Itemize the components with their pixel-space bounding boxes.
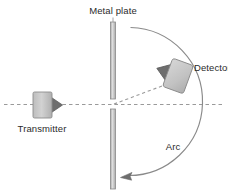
detector-body	[163, 58, 194, 94]
metal-plate-label: Metal plate	[89, 5, 137, 16]
metal-plate-bottom-segment	[111, 109, 116, 189]
transmitter-body	[33, 92, 52, 118]
detector-label: Detector	[194, 62, 228, 73]
arc-path	[127, 28, 203, 176]
diffraction-diagram: Metal plate Transmitter Detector Arc	[0, 0, 228, 192]
arc-arrowhead-icon	[121, 172, 133, 180]
transmitter-horn-icon	[52, 98, 63, 113]
transmitter-label: Transmitter	[18, 123, 67, 134]
metal-plate-top-segment	[111, 22, 116, 99]
diagram-canvas: Metal plate Transmitter Detector Arc	[0, 0, 228, 192]
diffracted-ray-dashed-line	[114, 83, 170, 104]
arc-label: Arc	[166, 141, 181, 152]
